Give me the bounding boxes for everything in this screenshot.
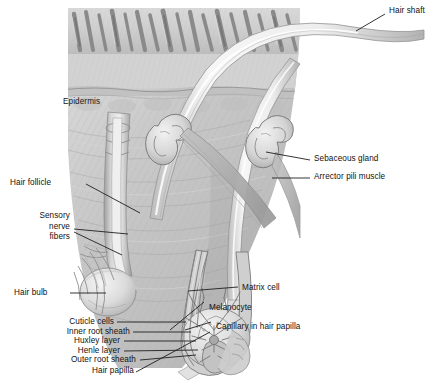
label-matrix-cell: Matrix cell (242, 283, 280, 293)
label-hair-papilla: Hair papilla (56, 366, 134, 376)
label-capillary-in-hair-papilla: Capillary in hair papilla (216, 322, 300, 332)
label-hair-bulb: Hair bulb (14, 288, 48, 298)
label-cuticle-cells: Cuticle cells (42, 317, 114, 327)
label-melanocyte: Melanocyte (209, 303, 252, 313)
label-sebaceous-gland: Sebaceous gland (314, 154, 379, 164)
label-arrector-pili-muscle: Arrector pili muscle (314, 172, 385, 182)
label-hair-shaft: Hair shaft (389, 6, 425, 16)
label-huxley-layer: Huxley layer (40, 336, 120, 346)
hair-follicle-diagram: Hair shaft Epidermis Sebaceous gland Arr… (0, 0, 436, 388)
label-hair-follicle: Hair follicle (10, 178, 51, 188)
label-epidermis: Epidermis (63, 97, 100, 107)
leader-hair-shaft (356, 14, 385, 31)
label-outer-root-sheath: Outer root sheath (30, 355, 136, 365)
label-sensory-nerve-fibers: Sensory nerve fibers (0, 211, 70, 243)
